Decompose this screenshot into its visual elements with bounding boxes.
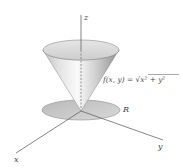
region-r-label: R — [122, 105, 129, 114]
z-axis-label: z — [83, 13, 89, 22]
x-axis — [16, 111, 81, 153]
surface-function-label: f(x, y) = √x² + y² — [102, 75, 179, 85]
y-axis — [81, 111, 163, 140]
x-axis-label: x — [14, 155, 19, 164]
cone-diagram: z x y R f(x, y) = √x² + y² — [0, 0, 183, 168]
y-axis-label: y — [157, 142, 163, 151]
radicand: x² + y² — [140, 75, 165, 84]
svg-text:f(x, y) = √x² + y²: f(x, y) = √x² + y² — [102, 75, 165, 84]
function-prefix: f(x, y) = — [102, 75, 135, 84]
